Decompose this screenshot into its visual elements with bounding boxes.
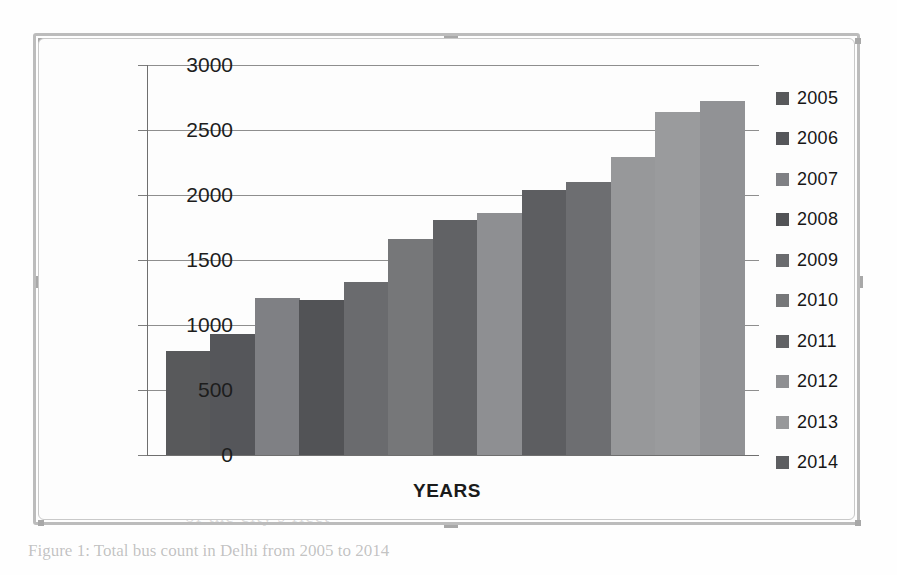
bar-series [147, 65, 747, 455]
legend-item[interactable]: 2007 [776, 159, 866, 200]
legend-item[interactable]: 2009 [776, 240, 866, 281]
legend-item[interactable]: 2014 [776, 443, 866, 484]
y-axis-tick-right [747, 130, 759, 131]
figure-caption: Figure 1: Total bus count in Delhi from … [28, 541, 389, 561]
frame-handle-icon [855, 520, 861, 526]
legend-label: 2007 [797, 169, 838, 190]
bar [344, 282, 389, 455]
legend-label: 2013 [797, 412, 838, 433]
y-axis-tick-label: 2000 [186, 183, 233, 207]
bar [611, 157, 656, 455]
bar [299, 300, 344, 455]
bar [388, 239, 433, 455]
x-axis-title: YEARS [147, 480, 747, 502]
y-axis-tick-right [747, 260, 759, 261]
legend-swatch-icon [776, 375, 789, 388]
y-axis-tick-right [747, 195, 759, 196]
bar [522, 190, 567, 455]
legend-item[interactable]: 2013 [776, 402, 866, 443]
legend-swatch-icon [776, 92, 789, 105]
bar [255, 298, 300, 455]
legend-label: 2012 [797, 371, 838, 392]
bar [433, 220, 478, 455]
legend-item[interactable]: 2005 [776, 78, 866, 119]
y-axis-tick-label: 0 [221, 443, 233, 467]
plot-area: 300025002000150010005000 [147, 65, 747, 455]
legend-item[interactable]: 2006 [776, 119, 866, 160]
bar [566, 182, 611, 455]
legend-swatch-icon [776, 213, 789, 226]
y-axis-tick [138, 455, 147, 456]
y-axis-tick-labels: 300025002000150010005000 [133, 65, 233, 455]
legend-swatch-icon [776, 173, 789, 186]
y-axis-tick-right [747, 65, 759, 66]
x-axis-line [147, 455, 759, 456]
y-axis-tick-label: 1500 [186, 248, 233, 272]
y-axis-tick-right [747, 325, 759, 326]
y-axis-tick-label: 500 [198, 378, 233, 402]
chart-legend: 2005200620072008200920102011201220132014 [776, 78, 866, 483]
y-axis-tick-label: 1000 [186, 313, 233, 337]
frame-handle-icon [855, 38, 861, 44]
legend-label: 2010 [797, 290, 838, 311]
legend-swatch-icon [776, 254, 789, 267]
legend-swatch-icon [776, 456, 789, 469]
legend-swatch-icon [776, 335, 789, 348]
scanned-page: the the growth of the buses in Delhi fro… [0, 0, 897, 575]
bar [655, 112, 700, 455]
legend-label: 2006 [797, 128, 838, 149]
y-axis-tick-label: 3000 [186, 53, 233, 77]
bar [700, 101, 745, 455]
legend-swatch-icon [776, 416, 789, 429]
legend-swatch-icon [776, 132, 789, 145]
y-axis-tick-right [747, 390, 759, 391]
legend-swatch-icon [776, 294, 789, 307]
legend-item[interactable]: 2008 [776, 200, 866, 241]
y-axis-tick-label: 2500 [186, 118, 233, 142]
legend-label: 2009 [797, 250, 838, 271]
legend-label: 2008 [797, 209, 838, 230]
frame-handle-icon [444, 525, 458, 528]
frame-handle-icon [38, 520, 44, 526]
bar [477, 213, 522, 455]
legend-item[interactable]: 2011 [776, 321, 866, 362]
legend-item[interactable]: 2012 [776, 362, 866, 403]
legend-item[interactable]: 2010 [776, 281, 866, 322]
legend-label: 2014 [797, 452, 838, 473]
legend-label: 2005 [797, 88, 838, 109]
legend-label: 2011 [797, 331, 837, 352]
